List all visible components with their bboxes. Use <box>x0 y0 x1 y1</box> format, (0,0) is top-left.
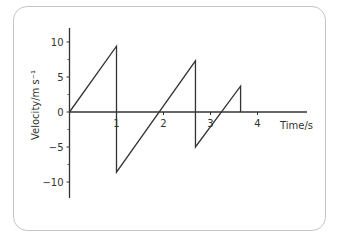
velocity-time-chart: 1050−5−101234 Time/s Velocity/m s⁻¹ <box>0 0 337 238</box>
y-tick-label: −10 <box>42 177 63 188</box>
y-tick-label: −5 <box>49 142 64 153</box>
y-tick-label: 0 <box>57 107 63 118</box>
y-tick-label: 5 <box>57 72 63 83</box>
axes <box>70 28 308 198</box>
data-series <box>70 46 241 172</box>
x-axis-label: Time/s <box>279 120 313 131</box>
x-tick-label: 2 <box>160 118 166 129</box>
velocity-line <box>70 46 241 172</box>
y-axis-label: Velocity/m s⁻¹ <box>30 70 41 140</box>
x-tick-label: 4 <box>254 118 260 129</box>
y-tick-label: 10 <box>51 37 64 48</box>
